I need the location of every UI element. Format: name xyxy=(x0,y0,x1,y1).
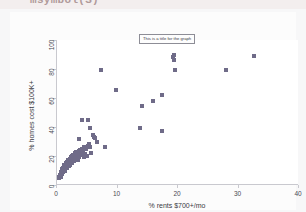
x-tick-mark xyxy=(117,185,118,188)
x-axis-label: % rents $700+/mo xyxy=(56,202,298,209)
scatter-point xyxy=(77,137,81,141)
scatter-point xyxy=(224,68,228,72)
scatter-point xyxy=(140,104,144,108)
y-tick-label: 100 xyxy=(48,40,55,75)
scatter-point xyxy=(88,145,92,149)
scatter-point xyxy=(86,118,90,122)
x-tick-label: 40 xyxy=(294,190,301,197)
scatter-point xyxy=(80,118,84,122)
scatter-point xyxy=(103,145,107,149)
scatter-point xyxy=(95,140,99,144)
scatter-point xyxy=(151,99,155,103)
x-tick-mark xyxy=(238,185,239,188)
x-tick-mark xyxy=(177,185,178,188)
scatter-point xyxy=(160,129,164,133)
y-axis-label: % homes cost $100K+ xyxy=(28,43,35,188)
scatter-point xyxy=(173,68,177,72)
scatter-point xyxy=(88,126,92,130)
graph-card: This is a title for the graph 010203040 … xyxy=(10,12,296,210)
scatter-point xyxy=(89,151,93,155)
graph-title-box: This is a title for the graph xyxy=(139,34,195,44)
code-header-strip: msymbol(S) xyxy=(0,0,306,9)
scatter-point xyxy=(252,54,256,58)
x-tick-label: 30 xyxy=(234,190,241,197)
scatter-point xyxy=(114,88,118,92)
x-tick-mark xyxy=(298,185,299,188)
x-tick-label: 0 xyxy=(54,190,58,197)
screenshot-page: msymbol(S) This is a title for the graph… xyxy=(0,0,306,212)
x-tick-label: 20 xyxy=(173,190,180,197)
scatter-point xyxy=(172,53,176,57)
scatter-point xyxy=(160,93,164,97)
plot-frame xyxy=(56,40,298,185)
scatter-point xyxy=(172,58,176,62)
scatter-point xyxy=(99,68,103,72)
scatter-point xyxy=(138,126,142,130)
x-tick-label: 10 xyxy=(113,190,120,197)
code-header-text: msymbol(S) xyxy=(30,0,99,6)
x-tick-mark xyxy=(56,185,57,188)
scatter-plot-area xyxy=(57,40,298,184)
